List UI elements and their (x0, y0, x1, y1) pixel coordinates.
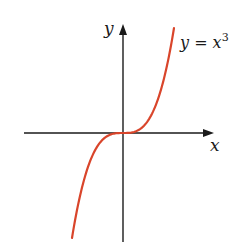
equation-base: y = x (179, 33, 222, 52)
curve-equation-label: y = x3 (179, 31, 229, 52)
y-axis-label: y (103, 18, 114, 38)
equation-exponent: 3 (222, 31, 229, 44)
x-axis-label: x (210, 135, 220, 155)
cubic-function-plot: y x y = x3 (0, 0, 251, 247)
y-axis-arrow-icon (119, 24, 127, 35)
